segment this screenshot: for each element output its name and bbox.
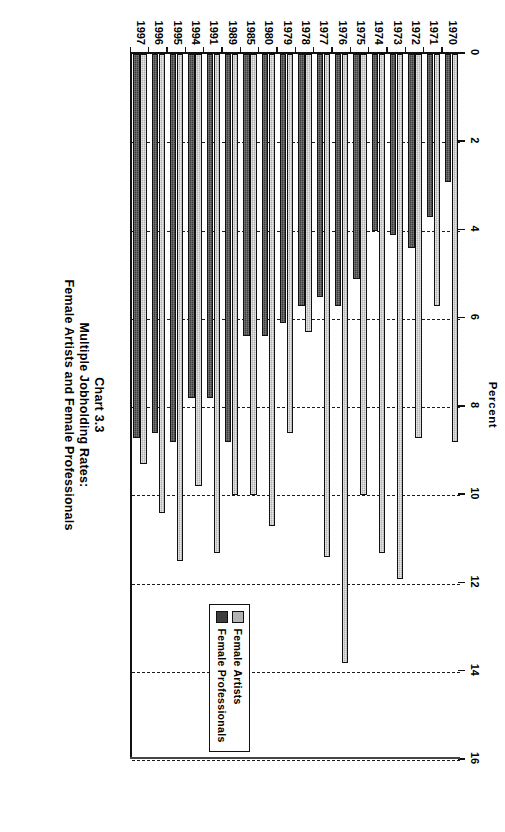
y-axis-category-label: 1978 (300, 21, 312, 45)
x-axis-tick-label: 0 (469, 49, 481, 55)
legend-item-professionals[interactable]: Female Professionals (216, 611, 228, 743)
y-axis-category-label: 1971 (428, 21, 440, 45)
bar-row: 1979 (277, 54, 295, 758)
y-axis-tick-mark (203, 47, 205, 54)
y-axis-tick-mark (295, 47, 297, 54)
y-axis-tick-mark (166, 47, 168, 54)
chart-canvas: Percent 0246810121416 197019711972197319… (0, 0, 505, 832)
x-axis-tick-label: 4 (469, 225, 481, 231)
bar-female-artists (177, 54, 183, 561)
bar-female-artists (397, 54, 403, 579)
bar-female-professionals (262, 54, 268, 336)
bar-female-artists (140, 54, 146, 464)
y-axis-category-label: 1985 (245, 21, 257, 45)
bar-female-artists (324, 54, 330, 557)
legend-label: Female Professionals (216, 629, 228, 743)
bar-row: 1974 (368, 54, 386, 758)
bar-female-artists (159, 54, 165, 513)
bar-female-professionals (225, 54, 231, 442)
bar-female-professionals (280, 54, 286, 323)
bar-female-artists (360, 54, 366, 495)
bar-female-artists (379, 54, 385, 553)
gridline (132, 760, 460, 761)
bar-row: 1972 (405, 54, 423, 758)
chart-title-line-1: Chart 3.3 (91, 52, 106, 758)
y-axis-tick-mark (350, 47, 352, 54)
x-axis-tick-label: 12 (469, 575, 481, 587)
y-axis-category-label: 1996 (153, 21, 165, 45)
y-axis-category-label: 1994 (190, 21, 202, 45)
bar-female-professionals (298, 54, 304, 306)
y-axis-category-label: 1973 (392, 21, 404, 45)
y-axis-category-label: 1974 (373, 21, 385, 45)
y-axis-tick-mark (405, 47, 407, 54)
legend-item-artists[interactable]: Female Artists (232, 611, 244, 743)
bar-row: 1975 (350, 54, 368, 758)
bar-row: 1980 (258, 54, 276, 758)
y-axis-category-label: 1977 (318, 21, 330, 45)
x-axis-tick-label: 2 (469, 137, 481, 143)
legend-swatch-icon (232, 611, 244, 623)
y-axis-tick-mark (240, 47, 242, 54)
y-axis-tick-mark (423, 47, 425, 54)
bar-row: 1970 (442, 54, 460, 758)
y-axis-category-label: 1970 (447, 21, 459, 45)
bar-female-artists (415, 54, 421, 438)
y-axis-tick-mark (386, 47, 388, 54)
bar-female-professionals (170, 54, 176, 442)
y-axis-tick-mark (221, 47, 223, 54)
x-axis-tick-label: 14 (469, 664, 481, 676)
y-axis-category-label: 1995 (172, 21, 184, 45)
bar-row: 1995 (167, 54, 185, 758)
bar-female-artists (250, 54, 256, 495)
y-axis-tick-mark (148, 47, 150, 54)
y-axis-tick-mark (258, 47, 260, 54)
chart-legend: Female ArtistsFemale Professionals (209, 604, 250, 752)
chart-title: Chart 3.3Multiple Jobholding Rates:Femal… (61, 52, 106, 758)
y-axis-tick-mark (331, 47, 333, 54)
bar-female-professionals (408, 54, 414, 248)
bar-female-artists (342, 54, 348, 663)
bar-row: 1997 (130, 54, 148, 758)
bar-row: 1977 (313, 54, 331, 758)
x-axis-tick-label: 6 (469, 314, 481, 320)
y-axis-category-label: 1976 (337, 21, 349, 45)
x-axis-tick-label: 16 (469, 752, 481, 764)
bar-female-artists (305, 54, 311, 332)
x-axis-tick-label: 10 (469, 487, 481, 499)
legend-swatch-icon (216, 611, 228, 623)
bar-row: 1996 (148, 54, 166, 758)
bar-female-professionals (243, 54, 249, 336)
bar-row: 1978 (295, 54, 313, 758)
bar-female-professionals (188, 54, 194, 398)
bar-female-professionals (207, 54, 213, 398)
bar-female-professionals (353, 54, 359, 279)
bar-female-professionals (427, 54, 433, 217)
x-axis-title: Percent (487, 52, 499, 758)
bar-rows: 1970197119721973197419751976197719781979… (132, 54, 460, 758)
bar-row: 1971 (423, 54, 441, 758)
bar-female-artists (434, 54, 440, 306)
bar-female-artists (269, 54, 275, 526)
bar-female-professionals (152, 54, 158, 433)
y-axis-category-label: 1979 (282, 21, 294, 45)
y-axis-category-label: 1980 (263, 21, 275, 45)
chart-title-line-3: Female Artists and Female Professionals (61, 52, 76, 758)
bar-female-professionals (133, 54, 139, 438)
x-axis-tick-label: 8 (469, 402, 481, 408)
bar-female-artists (195, 54, 201, 486)
y-axis-category-label: 1991 (208, 21, 220, 45)
y-axis-category-label: 1975 (355, 21, 367, 45)
bar-female-professionals (390, 54, 396, 235)
plot-area: 1970197119721973197419751976197719781979… (130, 52, 460, 758)
bar-female-artists (287, 54, 293, 433)
y-axis-tick-mark (276, 47, 278, 54)
bar-female-artists (232, 54, 238, 495)
y-axis-tick-mark (441, 47, 443, 54)
bar-row: 1973 (387, 54, 405, 758)
bar-female-professionals (317, 54, 323, 297)
bar-row: 1994 (185, 54, 203, 758)
chart-title-line-2: Multiple Jobholding Rates: (76, 52, 91, 758)
y-axis-category-label: 1972 (410, 21, 422, 45)
y-axis-tick-mark (185, 47, 187, 54)
